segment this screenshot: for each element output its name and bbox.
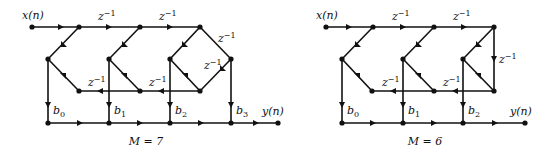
delay-label: z−1 xyxy=(442,75,461,89)
delay-label: z−1 xyxy=(391,9,410,23)
arrow-right-icon xyxy=(492,120,498,126)
input-label: x(n) xyxy=(316,9,338,22)
arrow-right-icon xyxy=(253,120,259,126)
branch-edge xyxy=(463,27,494,59)
delay-label: z−1 xyxy=(203,58,222,72)
arrow-right-icon xyxy=(431,120,437,126)
output-label: y(n) xyxy=(509,105,532,118)
coefficient-label: b1 xyxy=(408,104,420,119)
node xyxy=(228,120,233,125)
node xyxy=(197,88,202,93)
node xyxy=(491,24,496,29)
arrow-right-icon xyxy=(370,120,376,126)
arrow-up-left-icon xyxy=(475,73,481,79)
arrow-right-icon xyxy=(137,120,143,126)
flow-graph-m7: x(n) y(n) z−1 z−1 z−1 z−1 z−1 z−1 b0 b1 … xyxy=(22,9,284,148)
arrow-right-icon xyxy=(77,120,83,126)
arrow-right-icon xyxy=(198,120,204,126)
node xyxy=(228,56,233,61)
caption: M = 6 xyxy=(407,135,442,148)
node xyxy=(431,88,436,93)
delay-label: z−1 xyxy=(452,9,471,23)
coefficient-label: b0 xyxy=(347,104,359,119)
flow-graph-m6: x(n) y(n) z−1 z−1 z−1 z−1 z−1 b0 b1 b2 M… xyxy=(316,9,532,148)
delay-label: z−1 xyxy=(217,31,236,45)
arrow-left-icon xyxy=(452,88,458,94)
input-label: x(n) xyxy=(22,9,44,22)
coefficient-label: b0 xyxy=(53,104,65,119)
arrow-up-left-icon xyxy=(60,73,66,79)
flow-graphs: x(n) y(n) z−1 z−1 z−1 z−1 z−1 z−1 b0 b1 … xyxy=(0,0,557,154)
node xyxy=(491,88,496,93)
node xyxy=(460,120,465,125)
labels-m7: x(n) y(n) z−1 z−1 z−1 z−1 z−1 z−1 b0 b1 … xyxy=(22,9,284,148)
output-node xyxy=(522,120,527,125)
signal-flow-figure: x(n) y(n) z−1 z−1 z−1 z−1 z−1 z−1 b0 b1 … xyxy=(0,0,557,154)
delay-label: z−1 xyxy=(498,52,517,66)
delay-label: z−1 xyxy=(87,75,106,89)
arrow-right-icon xyxy=(58,24,64,30)
arrow-down-icon xyxy=(339,102,345,108)
arrow-left-icon xyxy=(158,88,164,94)
coefficient-label: b2 xyxy=(175,104,187,119)
output-node xyxy=(275,120,280,125)
coefficient-label: b3 xyxy=(236,104,248,119)
node xyxy=(45,120,50,125)
branch-edge xyxy=(109,27,140,59)
caption: M = 7 xyxy=(128,135,163,148)
arrow-right-icon xyxy=(106,24,112,30)
arrow-right-icon xyxy=(167,24,173,30)
node xyxy=(197,24,202,29)
branch-edge xyxy=(342,27,373,59)
coefficient-label: b2 xyxy=(468,104,480,119)
node xyxy=(167,56,172,61)
node xyxy=(400,56,405,61)
arrow-down-icon xyxy=(491,56,497,62)
node xyxy=(106,120,111,125)
arrow-down-icon xyxy=(400,102,406,108)
node xyxy=(76,24,81,29)
delay-label: z−1 xyxy=(381,75,400,89)
delay-label: z−1 xyxy=(97,9,116,23)
labels-m6: x(n) y(n) z−1 z−1 z−1 z−1 z−1 b0 b1 b2 M… xyxy=(316,9,532,148)
arrow-up-left-icon xyxy=(121,73,127,79)
branch-edge xyxy=(170,27,200,59)
arrow-left-icon xyxy=(390,88,396,94)
node xyxy=(369,88,374,93)
edges-m6 xyxy=(326,27,525,123)
node xyxy=(137,24,142,29)
delay-label: z−1 xyxy=(158,9,177,23)
node xyxy=(167,120,172,125)
node xyxy=(76,88,81,93)
arrow-right-icon xyxy=(346,24,352,30)
node xyxy=(106,56,111,61)
output-label: y(n) xyxy=(261,105,284,118)
input-node xyxy=(323,24,328,29)
node xyxy=(339,120,344,125)
arrow-down-icon xyxy=(460,102,466,108)
node xyxy=(45,56,50,61)
arrow-right-icon xyxy=(461,24,467,30)
node xyxy=(339,56,344,61)
node xyxy=(137,88,142,93)
node xyxy=(370,24,375,29)
node xyxy=(460,56,465,61)
arrow-right-icon xyxy=(400,24,406,30)
branch-edge xyxy=(403,27,434,59)
arrow-down-icon xyxy=(45,102,51,108)
arrow-up-left-icon xyxy=(415,73,421,79)
coefficient-label: b1 xyxy=(114,104,126,119)
arrow-down-icon xyxy=(228,102,234,108)
node xyxy=(431,24,436,29)
arrow-down-icon xyxy=(106,102,112,108)
input-node xyxy=(29,24,34,29)
node xyxy=(400,120,405,125)
branch-edge xyxy=(48,27,79,59)
arrow-down-icon xyxy=(167,102,173,108)
delay-label: z−1 xyxy=(148,75,167,89)
arrow-left-icon xyxy=(97,88,103,94)
